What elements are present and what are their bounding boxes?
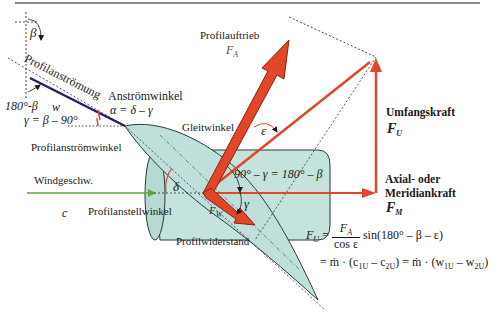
complement-beta-arc bbox=[28, 85, 40, 92]
alpha-marker bbox=[98, 110, 100, 120]
axial-label-line1: Axial- oder bbox=[385, 174, 440, 186]
w-label: w bbox=[52, 101, 60, 113]
windgeschw-label: Windgeschw. bbox=[34, 175, 93, 186]
force-equation-line1: FU = FA cos ε sin(180° – β – ε) bbox=[306, 222, 443, 250]
c-label: c bbox=[62, 207, 67, 219]
force-fraction: FA cos ε bbox=[332, 222, 360, 250]
gamma-definition-label: γ = β – 90° bbox=[24, 114, 78, 126]
blade-force-diagram bbox=[0, 0, 495, 324]
fu-symbol: FU bbox=[387, 122, 402, 138]
anstroemwinkel-label: Anströmwinkel bbox=[108, 90, 183, 102]
profilauftrieb-label: Profilauftrieb bbox=[200, 30, 259, 41]
fw-symbol: FW bbox=[209, 205, 222, 219]
beta-label: β bbox=[30, 26, 36, 39]
gamma-marker bbox=[97, 118, 98, 126]
epsilon-label: ε bbox=[261, 124, 266, 137]
force-equation-line2: = ṁ · (c1U – c2U) = ṁ · (w1U – w2U) bbox=[320, 256, 488, 271]
fm-symbol: FM bbox=[386, 201, 402, 217]
axial-label-line2: Meridiankraft bbox=[385, 188, 456, 200]
complement-beta-label: 180°-β bbox=[5, 100, 38, 112]
delta-label: δ bbox=[173, 180, 179, 193]
profilanstellwinkel-label: Profilanstellwinkel bbox=[88, 206, 172, 217]
profilwiderstand-label: Profilwiderstand bbox=[176, 236, 249, 247]
gamma-label: γ bbox=[244, 197, 249, 210]
umfangskraft-label: Umfangskraft bbox=[386, 107, 455, 119]
profilanstroemwinkel-label: Profilanströmwinkel bbox=[31, 142, 121, 153]
fa-symbol: FA bbox=[226, 44, 238, 59]
gleitwinkel-label: Gleitwinkel bbox=[182, 122, 234, 133]
alpha-definition-label: α = δ – γ bbox=[110, 104, 153, 116]
angle-relation-label: 90° – γ = 180° – β bbox=[234, 168, 322, 180]
